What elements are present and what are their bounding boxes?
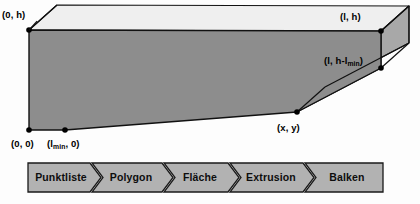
vertex-label-lmin-bottom: (lmin, 0) [47,138,80,150]
vertex-dot-slope-point [294,109,300,115]
vertex-label-lmin-bottom-sub: min [53,143,65,150]
flow-step-polygon-label: Polygon [110,171,152,183]
vertex-dot-right-notch [378,65,384,71]
vertex-label-origin-top-left: (0, h) [2,9,25,20]
vertex-label-origin-bottom-main: (0, 0) [11,138,34,149]
beam-front-face [29,30,381,130]
flow-step-punktliste-label: Punktliste [35,171,87,183]
vertex-label-right-top-main: (l, h) [340,11,361,22]
vertex-label-lmin-bottom-tail: , 0) [65,138,79,149]
vertex-label-slope-point-main: (x, y) [277,122,300,133]
process-chevron-bar: Punktliste Polygon Fläche Extrusion Balk… [28,163,383,192]
vertex-dot-lmin-bottom [62,127,68,133]
vertex-label-slope-point: (x, y) [277,122,300,133]
vertex-label-right-top: (l, h) [340,11,361,22]
vertex-dot-right-top [378,28,384,34]
vertex-label-right-notch-tail: ) [360,55,363,66]
vertex-label-origin-bottom: (0, 0) [11,138,34,149]
vertex-label-right-notch-main: (l, h-l [324,55,347,66]
vertex-label-right-notch-sub: min [347,60,359,67]
vertex-dot-origin-bottom [26,127,32,133]
diagram-canvas: (0, h) (l, h) (l, h-lmin) (x, y) (0, 0) … [0,0,420,204]
vertex-label-origin-top-left-main: (0, h) [2,9,25,20]
flow-step-balken-label: Balken [329,171,364,183]
figure-svg: (0, h) (l, h) (l, h-lmin) (x, y) (0, 0) … [0,0,420,204]
beam-solid-group [29,5,409,130]
flow-step-flaeche-label: Fläche [183,171,217,183]
flow-step-extrusion-label: Extrusion [246,171,296,183]
